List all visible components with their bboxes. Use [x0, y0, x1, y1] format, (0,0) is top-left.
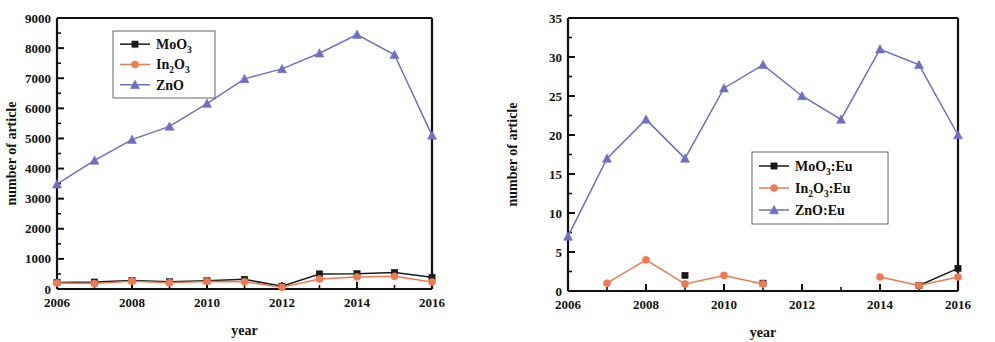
data-point	[428, 131, 437, 139]
data-point	[682, 272, 688, 278]
y-tick-label: 5	[556, 245, 563, 260]
data-point	[876, 45, 885, 53]
x-axis-title: year	[750, 325, 776, 340]
x-tick-label: 2010	[194, 295, 220, 310]
y-tick-label: 3000	[25, 191, 51, 206]
data-point	[278, 284, 285, 291]
y-tick-label: 6000	[25, 101, 51, 116]
y-tick-label: 1000	[25, 251, 51, 266]
x-axis-ticks: 200620082010201220142016	[555, 284, 972, 312]
x-axis-title: year	[231, 323, 257, 338]
data-point	[681, 280, 688, 287]
data-point	[915, 60, 924, 68]
legend-marker	[131, 61, 138, 68]
data-point	[91, 280, 98, 287]
data-point	[353, 273, 360, 280]
legend-marker	[771, 163, 777, 169]
data-point	[642, 256, 649, 263]
x-tick-label: 2008	[633, 297, 660, 312]
figure-root: 0100020003000400050006000700080009000200…	[0, 0, 995, 342]
data-point	[166, 279, 173, 286]
y-tick-label: 7000	[25, 71, 51, 86]
legend-marker	[770, 184, 777, 191]
legend[interactable]: MoO3:EuIn2O3:EuZnO:Eu	[752, 152, 888, 224]
data-point	[837, 115, 846, 123]
data-point	[955, 265, 961, 271]
y-tick-label: 4000	[25, 161, 51, 176]
legend-label: MoO3:Eu	[795, 159, 853, 177]
data-point	[720, 272, 727, 279]
y-axis-ticks: 05101520253035	[549, 11, 575, 299]
y-tick-label: 30	[549, 50, 562, 65]
data-point	[316, 275, 323, 282]
x-tick-label: 2016	[419, 295, 446, 310]
data-point	[391, 273, 398, 280]
data-point	[315, 49, 324, 57]
data-point	[353, 30, 362, 38]
data-point	[203, 99, 212, 107]
y-tick-label: 15	[549, 167, 563, 182]
data-point	[876, 273, 883, 280]
x-tick-label: 2006	[555, 297, 582, 312]
data-point	[759, 280, 766, 287]
y-tick-label: 25	[549, 89, 563, 104]
series-In2O3:Eu	[603, 256, 961, 289]
legend-label: In2O3:Eu	[795, 181, 851, 199]
chart-panel-right: 05101520253035200620082010201220142016ye…	[490, 0, 995, 342]
x-tick-label: 2008	[119, 295, 146, 310]
right-chart-svg: 05101520253035200620082010201220142016ye…	[490, 0, 995, 342]
y-tick-label: 2000	[25, 221, 51, 236]
y-tick-label: 8000	[25, 41, 51, 56]
data-point	[642, 115, 651, 123]
data-point	[390, 50, 399, 58]
legend-label: ZnO:Eu	[795, 203, 845, 218]
x-tick-label: 2012	[269, 295, 295, 310]
data-point	[915, 282, 922, 289]
data-point	[278, 64, 287, 72]
data-point	[954, 131, 963, 139]
legend-label: MoO3	[156, 37, 192, 55]
data-point	[165, 122, 174, 130]
data-point	[128, 278, 135, 285]
legend-label: ZnO	[156, 78, 184, 93]
chart-panel-left: 0100020003000400050006000700080009000200…	[0, 0, 470, 342]
y-axis-title: number of article	[505, 103, 520, 207]
data-point	[203, 278, 210, 285]
x-tick-label: 2014	[344, 295, 371, 310]
legend-marker	[132, 41, 138, 47]
x-axis-ticks: 200620082010201220142016	[44, 282, 446, 310]
data-point	[53, 279, 60, 286]
data-point	[603, 280, 610, 287]
y-tick-label: 5000	[25, 131, 51, 146]
x-tick-label: 2012	[789, 297, 815, 312]
y-tick-label: 10	[549, 206, 562, 221]
y-tick-label: 20	[549, 128, 562, 143]
data-point	[759, 60, 768, 68]
y-axis-title: number of article	[4, 102, 19, 206]
data-point	[241, 278, 248, 285]
data-point	[720, 84, 729, 92]
x-tick-label: 2010	[711, 297, 737, 312]
left-chart-svg: 0100020003000400050006000700080009000200…	[0, 0, 470, 342]
x-tick-label: 2006	[44, 295, 71, 310]
y-tick-label: 35	[549, 11, 563, 26]
data-point	[90, 156, 99, 164]
x-tick-label: 2014	[867, 297, 894, 312]
y-tick-label: 9000	[25, 11, 51, 26]
y-axis-ticks: 0100020003000400050006000700080009000	[25, 11, 64, 297]
series-line	[919, 268, 958, 285]
series-ZnO	[53, 30, 437, 188]
legend[interactable]: MoO3In2O3ZnO	[113, 31, 215, 98]
x-tick-label: 2016	[945, 297, 972, 312]
data-point	[428, 279, 435, 286]
data-point	[954, 273, 961, 280]
